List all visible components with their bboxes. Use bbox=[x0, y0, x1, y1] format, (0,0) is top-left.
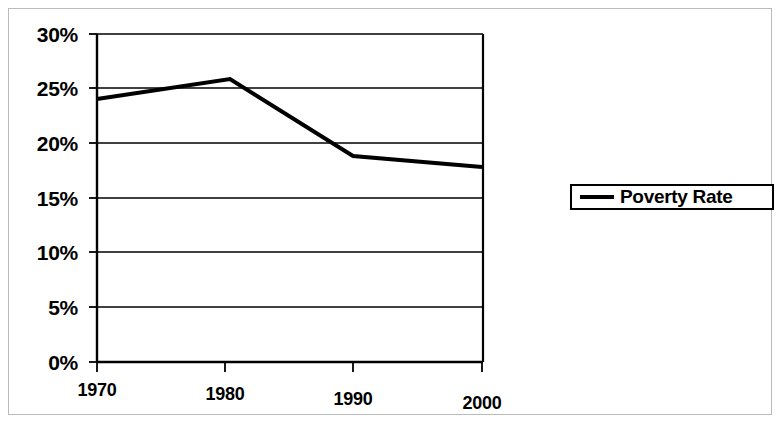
y-tick-label-10: 10% bbox=[0, 242, 78, 263]
x-tick-label-1980: 1980 bbox=[180, 385, 270, 403]
y-tick-label-20: 20% bbox=[0, 133, 78, 154]
y-tick-label-0: 0% bbox=[0, 352, 78, 373]
x-tick-marks bbox=[97, 362, 482, 372]
x-tick-label-2000: 2000 bbox=[437, 394, 527, 412]
poverty-rate-line-chart: 30% 25% 20% 15% 10% 5% 0% 1970 1980 1990… bbox=[0, 0, 780, 427]
series-poverty-rate bbox=[97, 79, 482, 167]
gridlines bbox=[97, 34, 483, 307]
y-tick-label-15: 15% bbox=[0, 188, 78, 209]
y-tick-label-30: 30% bbox=[0, 24, 78, 45]
y-tick-label-25: 25% bbox=[0, 78, 78, 99]
chart-legend: Poverty Rate bbox=[570, 184, 774, 210]
chart-screenshot: 30% 25% 20% 15% 10% 5% 0% 1970 1980 1990… bbox=[0, 0, 780, 427]
x-tick-label-1970: 1970 bbox=[52, 381, 142, 399]
plot-area bbox=[0, 0, 780, 427]
legend-line-swatch-icon bbox=[580, 195, 614, 199]
x-tick-label-1990: 1990 bbox=[308, 390, 398, 408]
legend-label-poverty-rate: Poverty Rate bbox=[620, 186, 733, 208]
y-tick-label-5: 5% bbox=[0, 297, 78, 318]
